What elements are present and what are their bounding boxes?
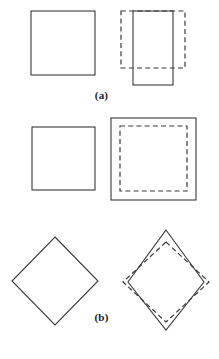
panel-b-graphic xyxy=(0,110,219,225)
reference-square-a xyxy=(31,11,95,75)
solid-diamond-c xyxy=(128,230,204,330)
figure-panel-b: (b) xyxy=(0,110,219,225)
dashed-diamond-c xyxy=(123,242,209,322)
panel-c-graphic xyxy=(0,225,219,359)
panel-caption-a: (a) xyxy=(0,89,211,101)
figure-root: (a) (b) (c) xyxy=(0,0,219,359)
reference-square-b xyxy=(32,127,95,190)
dashed-inner-square-b xyxy=(120,126,187,191)
reference-diamond-c xyxy=(12,237,98,325)
solid-outer-square-b xyxy=(111,118,196,200)
figure-panel-a: (a) xyxy=(0,0,219,110)
dashed-square-a xyxy=(121,11,185,68)
figure-panel-c: (c) xyxy=(0,225,219,359)
solid-rectangle-a xyxy=(133,11,173,85)
